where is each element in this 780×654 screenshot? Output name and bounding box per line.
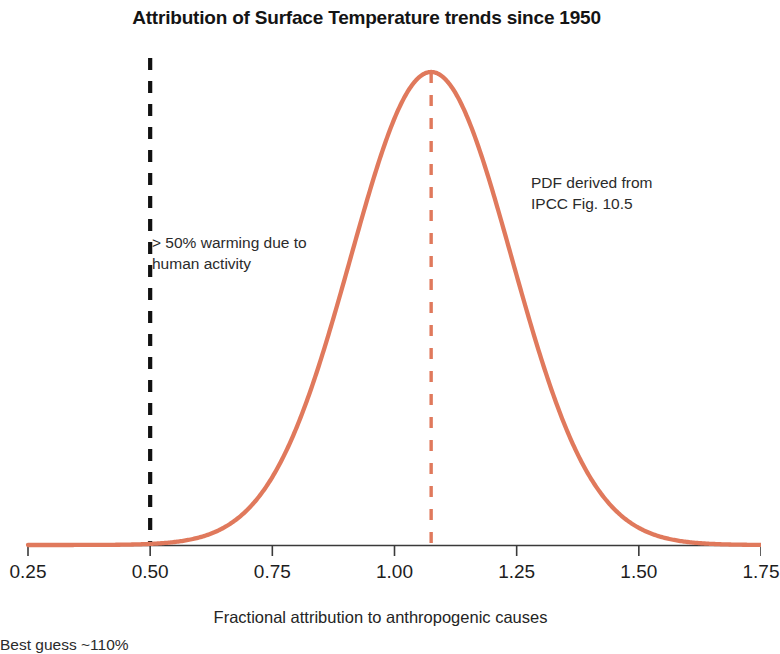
x-tick-label: 0.50 — [132, 561, 169, 583]
annotation-human-activity: > 50% warming due to human activity — [152, 232, 307, 274]
x-axis-title: Fractional attribution to anthropogenic … — [0, 608, 761, 627]
pdf-curve — [28, 72, 761, 545]
x-axis-ticks — [28, 545, 761, 556]
annotation-best-guess: Best guess ~110% — [0, 636, 761, 654]
x-tick-label: 0.75 — [254, 561, 291, 583]
annotation-pdf-source: PDF derived from IPCC Fig. 10.5 — [531, 172, 652, 214]
x-tick-label: 1.50 — [620, 561, 657, 583]
x-tick-label: 1.75 — [743, 561, 780, 583]
x-tick-label: 1.25 — [498, 561, 535, 583]
x-tick-label: 1.00 — [376, 561, 413, 583]
x-tick-label: 0.25 — [10, 561, 47, 583]
axis-group — [28, 545, 761, 556]
page-title: Attribution of Surface Temperature trend… — [0, 7, 733, 29]
